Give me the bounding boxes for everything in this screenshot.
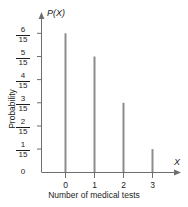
y-tick-label-6-15: 6 15 <box>12 26 34 44</box>
x-axis-variable-label: X <box>174 158 180 167</box>
y-axis-variable-label: P(X) <box>47 9 65 18</box>
x-tick-label-3: 3 <box>145 180 161 190</box>
y-tick-label-0: 0 <box>12 167 34 176</box>
data-bars <box>66 33 153 172</box>
probability-distribution-chart: P(X) X 6 15 5 15 4 15 3 15 2 15 1 15 0 0… <box>0 0 188 207</box>
x-axis-ticks <box>66 173 153 179</box>
y-axis-arrowhead-icon <box>39 12 45 19</box>
x-axis-title: Number of medical tests <box>0 190 188 200</box>
y-axis-ticks <box>37 33 42 149</box>
x-tick-label-2: 2 <box>116 180 132 190</box>
y-axis-title: Probability <box>7 59 17 159</box>
x-tick-label-1: 1 <box>87 180 103 190</box>
x-tick-label-0: 0 <box>58 180 74 190</box>
x-axis-arrowhead-icon <box>174 170 181 176</box>
